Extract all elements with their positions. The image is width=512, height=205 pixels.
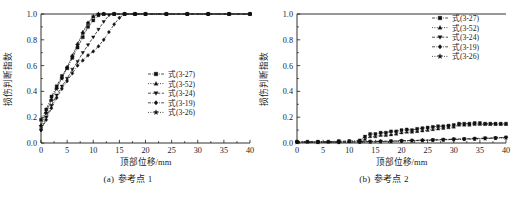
- legend-marker: [154, 81, 158, 85]
- legend-marker: [154, 72, 158, 76]
- y-tick-label: 0.4: [283, 87, 293, 96]
- x-tick-label: 35: [220, 146, 228, 155]
- series-marker: [92, 19, 95, 22]
- series-marker: [102, 20, 105, 23]
- x-tick-label: 15: [115, 146, 123, 155]
- series-marker: [71, 68, 74, 71]
- legend-label: 式(3-26): [168, 107, 195, 117]
- legend: 式(3-27)式(3-52)式(3-24)式(3-19)式(3-26): [148, 69, 195, 117]
- y-tick-label: 0.6: [27, 62, 37, 71]
- chart-panel-a: 05101520253035400.00.20.40.60.81.0顶部位移/m…: [0, 0, 256, 168]
- legend-label: 式(3-52): [168, 79, 195, 89]
- x-tick-label: 0: [295, 146, 299, 155]
- panel-b-caption: (b) 参考点 2: [256, 172, 512, 185]
- legend-label: 式(3-27): [168, 69, 195, 79]
- series-3: [39, 13, 251, 132]
- y-tick-label: 0.8: [27, 36, 37, 45]
- y-tick-label: 0.2: [283, 113, 293, 122]
- legend-label: 式(3-52): [452, 23, 479, 33]
- y-axis-title: 损伤判断指数: [2, 52, 13, 106]
- legend-label: 式(3-24): [168, 88, 195, 98]
- panel-a: 05101520253035400.00.20.40.60.81.0顶部位移/m…: [0, 0, 256, 205]
- x-tick-label: 30: [450, 146, 458, 155]
- series-1: [40, 13, 252, 122]
- x-tick-label: 10: [345, 146, 353, 155]
- legend-marker: [438, 25, 442, 29]
- x-tick-label: 15: [371, 146, 379, 155]
- series-marker: [86, 44, 89, 47]
- x-axis-title: 顶部位移/mm: [120, 156, 172, 167]
- y-axis-title: 损伤判断指数: [258, 52, 269, 106]
- figure-container: 05101520253035400.00.20.40.60.81.0顶部位移/m…: [0, 0, 512, 205]
- legend-marker: [154, 110, 159, 115]
- panel-a-caption: (a) 参考点 1: [0, 172, 256, 185]
- series-line: [41, 14, 250, 120]
- panel-b-caption-tag: (b): [359, 174, 370, 184]
- x-tick-label: 5: [321, 146, 325, 155]
- series-marker: [45, 118, 48, 122]
- panel-a-caption-tag: (a): [104, 174, 115, 184]
- series-marker: [50, 106, 53, 110]
- y-tick-label: 0.6: [283, 62, 293, 71]
- series-marker: [97, 28, 100, 31]
- series-marker: [92, 36, 95, 39]
- legend-label: 式(3-19): [452, 42, 479, 52]
- series-marker: [40, 118, 43, 121]
- axis-spine-left-top: [41, 14, 250, 143]
- x-tick-label: 35: [476, 146, 484, 155]
- legend-label: 式(3-27): [452, 13, 479, 23]
- x-tick-label: 0: [39, 146, 43, 155]
- y-tick-label: 0.0: [27, 139, 37, 148]
- legend-marker: [438, 54, 443, 59]
- x-tick-label: 25: [424, 146, 432, 155]
- x-tick-label: 5: [65, 146, 69, 155]
- panel-b-caption-text: 参考点 2: [374, 174, 409, 184]
- legend-marker: [438, 45, 442, 50]
- x-tick-label: 40: [502, 146, 510, 155]
- y-tick-label: 1.0: [283, 10, 293, 19]
- series-marker: [81, 51, 84, 54]
- x-tick-label: 40: [246, 146, 254, 155]
- y-tick-label: 0.0: [283, 139, 293, 148]
- series-marker: [107, 14, 110, 17]
- x-tick-label: 20: [397, 146, 405, 155]
- x-tick-label: 30: [194, 146, 202, 155]
- legend-label: 式(3-26): [452, 51, 479, 61]
- series-marker: [107, 30, 110, 34]
- legend-marker: [154, 101, 158, 106]
- y-tick-label: 0.4: [27, 87, 37, 96]
- chart-panel-b: 05101520253035400.00.20.40.60.81.0顶部位移/m…: [256, 0, 512, 168]
- panel-a-caption-text: 参考点 1: [118, 174, 153, 184]
- x-tick-label: 10: [89, 146, 97, 155]
- y-tick-label: 0.8: [283, 36, 293, 45]
- series-marker: [390, 130, 393, 133]
- x-tick-label: 25: [168, 146, 176, 155]
- legend-marker: [438, 16, 442, 20]
- series-marker: [49, 98, 53, 102]
- plot-area: 05101520253035400.00.20.40.60.81.0: [27, 10, 254, 155]
- y-tick-label: 0.2: [27, 113, 37, 122]
- series-5: [39, 12, 252, 128]
- x-tick-label: 20: [141, 146, 149, 155]
- panel-b: 05101520253035400.00.20.40.60.81.0顶部位移/m…: [256, 0, 512, 205]
- legend-label: 式(3-19): [168, 98, 195, 108]
- legend: 式(3-27)式(3-52)式(3-24)式(3-19)式(3-26): [432, 13, 479, 61]
- legend-label: 式(3-24): [452, 32, 479, 42]
- x-axis-title: 顶部位移/mm: [376, 156, 428, 167]
- y-tick-label: 1.0: [27, 10, 37, 19]
